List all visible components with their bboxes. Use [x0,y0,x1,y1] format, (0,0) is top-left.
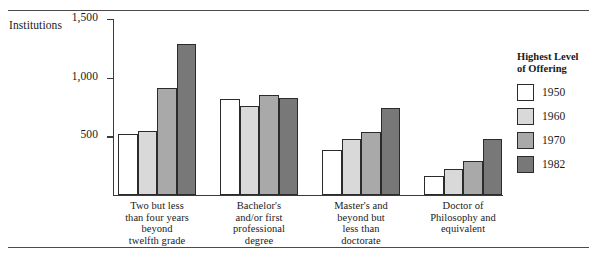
x-axis-baseline [113,195,503,196]
legend-rows: 1950196019701982 [517,80,595,176]
y-axis-tick: 1,000 [107,78,114,79]
legend-swatch [517,84,534,101]
bar [118,134,138,195]
legend-title-line2: of Offering [517,63,567,74]
y-axis-tick-label: 500 [80,128,98,140]
category-label-line: Two but less [130,200,184,211]
bar [381,108,401,195]
legend-row: 1982 [517,152,595,176]
category-label-line: less than [343,223,380,234]
category-label-line: beyond but [337,212,384,223]
bar [444,169,464,195]
chart-legend: Highest Level of Offering 19501960197019… [517,51,595,176]
bar [138,131,158,195]
legend-swatch [517,156,534,173]
category-label-line: equivalent [441,223,485,234]
category-label: Bachelor'sand/or firstprofessionaldegree [212,200,307,246]
legend-row: 1970 [517,128,595,152]
bar [157,88,177,195]
category-label-line: doctorate [341,235,381,246]
bar [361,132,381,195]
category-label: Two but lessthan four yearsbeyondtwelfth… [105,200,210,246]
category-label-line: Bachelor's [237,200,281,211]
bar [424,176,444,195]
legend-label: 1950 [542,86,565,98]
chart-figure: Institutions 1,5001,000500 Two but lesst… [0,0,597,255]
legend-row: 1960 [517,104,595,128]
y-axis-title: Institutions [9,19,62,31]
category-label-line: than four years [125,212,189,223]
bar [240,106,260,195]
category-label-line: degree [245,235,273,246]
legend-swatch [517,108,534,125]
legend-title: Highest Level of Offering [517,51,595,75]
bar [463,161,483,195]
legend-swatch [517,132,534,149]
y-axis-tick: 1,500 [107,19,114,20]
category-label-line: beyond [141,223,172,234]
bar [322,150,342,195]
category-label-line: twelfth grade [129,235,185,246]
bottom-rule [8,247,589,248]
category-label-line: professional [233,223,285,234]
bar [342,139,362,195]
legend-label: 1982 [542,158,565,170]
bar [483,139,503,195]
legend-title-line1: Highest Level [517,51,579,62]
category-label-line: and/or first [236,212,283,223]
category-label-line: Master's and [334,200,388,211]
plot-area: 1,5001,000500 [113,19,503,195]
legend-row: 1950 [517,80,595,104]
category-label-line: Philosophy and [430,212,496,223]
category-label: Doctor ofPhilosophy andequivalent [413,200,513,235]
category-label-line: Doctor of [443,200,484,211]
y-axis-tick-label: 1,500 [72,11,98,23]
y-axis-tick: 500 [107,136,114,137]
legend-label: 1970 [542,134,565,146]
y-axis-tick-label: 1,000 [72,70,98,82]
bar [177,44,197,195]
bar [259,95,279,195]
bar [279,98,299,195]
y-axis-line [113,19,114,195]
category-label: Master's andbeyond butless thandoctorate [314,200,409,246]
bar [220,99,240,195]
legend-label: 1960 [542,110,565,122]
